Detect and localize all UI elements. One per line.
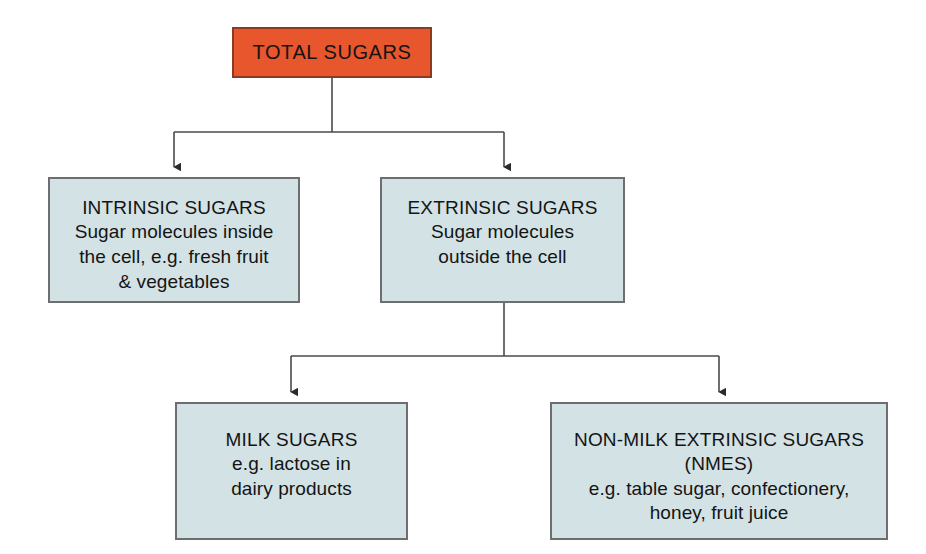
node-extrinsic-sugars-description: Sugar molecules outside the cell [431, 220, 574, 269]
node-nmes-description: e.g. table sugar, confectionery, honey, … [589, 477, 850, 526]
node-total-sugars-title: TOTAL SUGARS [252, 40, 411, 66]
node-nmes-title: NON-MILK EXTRINSIC SUGARS (NMES) [574, 428, 864, 477]
node-extrinsic-sugars-title: EXTRINSIC SUGARS [407, 196, 597, 220]
node-milk-sugars: MILK SUGARS e.g. lactose in dairy produc… [175, 402, 408, 540]
node-total-sugars: TOTAL SUGARS [232, 27, 432, 78]
node-milk-sugars-description: e.g. lactose in dairy products [231, 452, 352, 501]
node-intrinsic-sugars-title: INTRINSIC SUGARS [82, 196, 266, 220]
node-intrinsic-sugars-description: Sugar molecules inside the cell, e.g. fr… [75, 220, 274, 294]
edge-extrinsic-to-level2 [291, 303, 719, 392]
sugars-classification-diagram: TOTAL SUGARS INTRINSIC SUGARS Sugar mole… [0, 0, 926, 554]
edge-total-to-level1 [174, 78, 504, 167]
node-nmes: NON-MILK EXTRINSIC SUGARS (NMES) e.g. ta… [550, 402, 888, 540]
node-intrinsic-sugars: INTRINSIC SUGARS Sugar molecules inside … [48, 177, 300, 303]
node-extrinsic-sugars: EXTRINSIC SUGARS Sugar molecules outside… [380, 177, 625, 303]
node-milk-sugars-title: MILK SUGARS [225, 428, 357, 452]
